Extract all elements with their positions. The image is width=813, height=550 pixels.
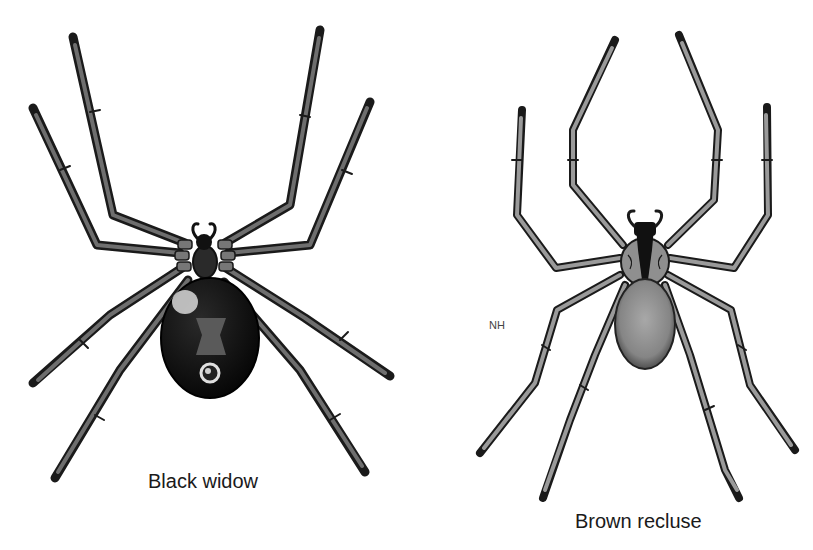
black-widow-illustration bbox=[33, 30, 390, 478]
brown-recluse-abdomen bbox=[615, 279, 675, 369]
black-widow-highlight bbox=[172, 290, 198, 314]
brown-recluse-chelicerae bbox=[634, 222, 656, 236]
spider-illustrations bbox=[0, 0, 813, 550]
brown-recluse-caption: Brown recluse bbox=[575, 510, 702, 533]
black-widow-cephalothorax bbox=[193, 246, 217, 278]
black-widow-head bbox=[196, 234, 212, 250]
black-widow-caption: Black widow bbox=[148, 470, 258, 493]
nh-annotation: NH bbox=[489, 319, 505, 331]
spider-comparison-figure: Black widow Brown recluse NH bbox=[0, 0, 813, 550]
brown-recluse-illustration bbox=[480, 35, 795, 498]
